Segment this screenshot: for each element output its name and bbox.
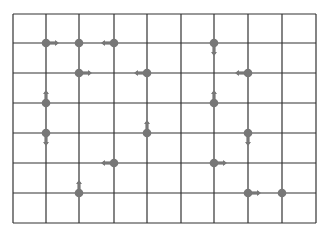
grid-node bbox=[101, 39, 118, 48]
grid-node bbox=[244, 189, 261, 198]
arrowhead-icon bbox=[88, 70, 92, 76]
grid-node bbox=[75, 180, 84, 197]
arrowhead-icon bbox=[211, 52, 217, 56]
arrowhead-icon bbox=[43, 90, 49, 94]
grid-node bbox=[210, 39, 219, 56]
node-dot-icon bbox=[110, 39, 119, 48]
node-dot-icon bbox=[210, 39, 219, 48]
node-dot-icon bbox=[42, 129, 51, 138]
arrowhead-icon bbox=[43, 142, 49, 146]
grid-node bbox=[42, 129, 51, 146]
grid-node bbox=[143, 120, 152, 137]
arrowhead-icon bbox=[144, 120, 150, 124]
grid-node bbox=[42, 39, 59, 48]
arrowhead-icon bbox=[257, 190, 261, 196]
grid-node bbox=[235, 69, 252, 78]
node-dot-icon bbox=[110, 159, 119, 168]
grid-node bbox=[134, 69, 151, 78]
grid-node bbox=[75, 69, 92, 78]
node-dot-icon bbox=[244, 189, 253, 198]
node-dot-icon bbox=[278, 189, 287, 198]
node-dot-icon bbox=[210, 99, 219, 108]
grid-node bbox=[244, 129, 253, 146]
node-dot-icon bbox=[75, 189, 84, 198]
arrowhead-icon bbox=[235, 70, 239, 76]
grid-node bbox=[278, 189, 287, 198]
arrowhead-icon bbox=[134, 70, 138, 76]
node-dot-icon bbox=[75, 69, 84, 78]
arrowhead-icon bbox=[101, 40, 105, 46]
node-dot-icon bbox=[244, 129, 253, 138]
node-dot-icon bbox=[75, 39, 84, 48]
nodes-layer bbox=[42, 39, 287, 198]
node-dot-icon bbox=[42, 99, 51, 108]
node-dot-icon bbox=[143, 69, 152, 78]
arrowhead-icon bbox=[101, 160, 105, 166]
grid-node bbox=[42, 90, 51, 107]
grid-node bbox=[101, 159, 118, 168]
node-dot-icon bbox=[210, 159, 219, 168]
arrowhead-icon bbox=[211, 90, 217, 94]
arrowhead-icon bbox=[76, 180, 82, 184]
arrowhead-icon bbox=[223, 160, 227, 166]
grid-diagram bbox=[0, 0, 328, 234]
node-dot-icon bbox=[143, 129, 152, 138]
arrowhead-icon bbox=[55, 40, 59, 46]
grid-node bbox=[210, 90, 219, 107]
node-dot-icon bbox=[42, 39, 51, 48]
grid-node bbox=[75, 39, 84, 48]
arrowhead-icon bbox=[245, 142, 251, 146]
grid-node bbox=[210, 159, 227, 168]
grid-lines bbox=[13, 14, 316, 223]
node-dot-icon bbox=[244, 69, 253, 78]
